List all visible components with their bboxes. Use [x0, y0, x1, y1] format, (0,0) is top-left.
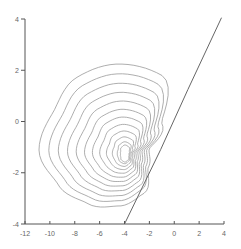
y-tick-label: -4	[13, 221, 19, 228]
contour-level	[49, 74, 164, 202]
x-tick-label: -4	[121, 230, 127, 237]
x-tick-label: -2	[146, 230, 152, 237]
contour-level	[68, 92, 155, 191]
contour-level	[39, 64, 168, 207]
axes: -12-10-8-6-4-2024-4-2024	[13, 16, 226, 238]
x-tick-label: -10	[45, 230, 55, 237]
y-tick-label: 4	[15, 16, 19, 23]
boundary-line	[125, 18, 222, 224]
x-tick-label: 0	[172, 230, 176, 237]
contour-lines	[39, 64, 168, 207]
contour-level	[106, 131, 136, 170]
contour-level	[76, 101, 150, 186]
y-tick-label: 2	[15, 67, 19, 74]
x-tick-label: -12	[20, 230, 30, 237]
contour-chart: -12-10-8-6-4-2024-4-2024	[0, 0, 241, 249]
y-tick-label: -2	[13, 169, 19, 176]
x-tick-label: -6	[97, 230, 103, 237]
x-tick-label: -8	[72, 230, 78, 237]
y-tick-label: 0	[15, 118, 19, 125]
x-tick-label: 4	[222, 230, 226, 237]
x-tick-label: 2	[197, 230, 201, 237]
contour-level	[120, 145, 129, 162]
